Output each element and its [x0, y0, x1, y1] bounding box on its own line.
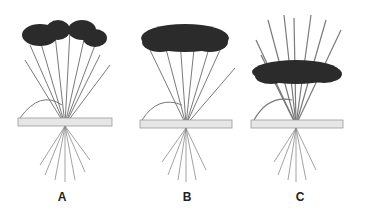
- plant-label-a: A: [52, 190, 72, 204]
- plant-label-b: B: [177, 190, 197, 204]
- rice-plant-b-illustration: [120, 0, 242, 218]
- rice-plant-c-illustration: [236, 0, 358, 218]
- plant-a: A: [0, 0, 122, 218]
- plant-c: C: [236, 0, 358, 218]
- plant-b: B: [120, 0, 242, 218]
- plant-label-c: C: [290, 190, 310, 204]
- rice-plant-a-illustration: [0, 0, 122, 218]
